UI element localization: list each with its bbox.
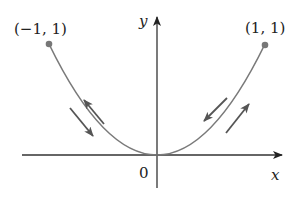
y-axis-label: y [138, 12, 148, 30]
origin-label: 0 [139, 164, 149, 182]
point-left [46, 41, 53, 48]
point-right [262, 42, 269, 49]
arrow-up-left-icon [84, 100, 104, 124]
parabola-diagram: (−1, 1) (1, 1) y x 0 [0, 0, 296, 197]
arrow-up-right-icon [226, 104, 249, 133]
point-right-label: (1, 1) [245, 19, 285, 37]
arrow-down-left-icon [204, 98, 227, 121]
x-axis-label: x [271, 166, 280, 184]
point-left-label: (−1, 1) [14, 20, 67, 38]
